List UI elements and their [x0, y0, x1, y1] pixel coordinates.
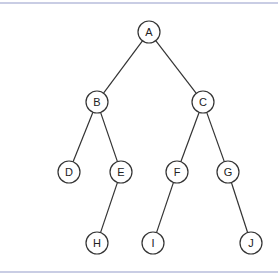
- edge-C-F: [181, 112, 199, 161]
- edge-C-G: [207, 112, 225, 161]
- node-label: F: [174, 166, 181, 178]
- node-J: J: [240, 232, 262, 254]
- node-I: I: [142, 232, 164, 254]
- node-label: H: [93, 237, 101, 249]
- node-E: E: [110, 161, 132, 183]
- node-F: F: [166, 161, 188, 183]
- node-B: B: [86, 91, 108, 113]
- tree-nodes: ABCDEFGHIJ: [58, 21, 262, 254]
- edge-G-J: [231, 182, 247, 232]
- node-C: C: [192, 91, 214, 113]
- node-label: D: [65, 166, 73, 178]
- edge-A-C: [156, 41, 197, 94]
- edge-A-B: [104, 41, 143, 93]
- node-A: A: [138, 21, 160, 43]
- node-D: D: [58, 161, 80, 183]
- edge-B-E: [101, 112, 118, 161]
- node-label: C: [199, 96, 207, 108]
- binary-tree-diagram: ABCDEFGHIJ: [0, 0, 278, 275]
- node-H: H: [86, 232, 108, 254]
- node-label: I: [151, 237, 154, 249]
- node-label: E: [117, 166, 124, 178]
- edge-E-H: [101, 182, 118, 232]
- tree-edges: [73, 41, 248, 233]
- node-label: B: [93, 96, 100, 108]
- edge-F-I: [157, 182, 174, 232]
- node-label: G: [224, 166, 233, 178]
- node-G: G: [217, 161, 239, 183]
- node-label: A: [145, 26, 153, 38]
- node-label: J: [248, 237, 254, 249]
- edge-B-D: [73, 112, 93, 162]
